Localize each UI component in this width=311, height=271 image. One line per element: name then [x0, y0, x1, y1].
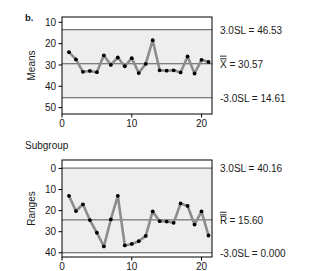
means-data-point	[130, 56, 134, 60]
means-chart: 504030201001020Means3.0SL = 46.53X= 30.5…	[26, 17, 286, 129]
ranges-data-point	[74, 209, 78, 213]
means-ytick-label: 50	[45, 102, 57, 113]
ranges-data-point	[200, 210, 204, 214]
ranges-data-point	[207, 234, 211, 238]
ranges-axis-title: Ranges	[26, 191, 37, 225]
ranges-data-point	[88, 218, 92, 222]
means-xtick-label: 10	[126, 118, 138, 129]
means-ytick-label: 30	[45, 60, 57, 71]
ranges-ytick-label: 30	[45, 226, 57, 237]
ranges-center-value: = 15.60	[230, 215, 264, 226]
ranges-data-point	[102, 245, 106, 249]
ranges-ytick-label: 40	[45, 247, 57, 258]
ranges-ytick-label: 0	[50, 163, 56, 174]
means-data-point	[67, 50, 71, 54]
ranges-xtick-label: 20	[196, 261, 208, 271]
means-below-lcl-band	[62, 98, 212, 114]
ranges-center-annotation: R= 15.60	[220, 212, 264, 226]
ranges-data-point	[109, 218, 113, 222]
ranges-center-symbol: R	[220, 215, 227, 226]
means-lcl-annotation: -3.0SL = 14.61	[220, 93, 286, 104]
means-data-point	[172, 68, 176, 72]
means-ytick-label: 20	[45, 38, 57, 49]
means-xtick-label: 20	[196, 118, 208, 129]
ranges-data-point	[158, 219, 162, 223]
ranges-lcl-annotation: -3.0SL = 0.000	[220, 248, 286, 259]
ranges-ytick-label: 20	[45, 205, 57, 216]
means-data-point	[207, 60, 211, 64]
ranges-data-point	[95, 231, 99, 235]
means-data-point	[88, 69, 92, 73]
ranges-data-point	[193, 223, 197, 227]
figure-canvas: b.504030201001020Means3.0SL = 46.53X= 30…	[0, 0, 311, 271]
control-chart-figure: b.504030201001020Means3.0SL = 46.53X= 30…	[0, 0, 311, 271]
ranges-xtick-label: 0	[59, 261, 65, 271]
means-center-symbol: X	[220, 59, 227, 70]
subgroup-axis-title: Subgroup	[25, 140, 69, 151]
ranges-below-lcl-band	[62, 253, 212, 257]
ranges-above-ucl-band	[62, 160, 212, 168]
means-ytick-label: 40	[45, 81, 57, 92]
means-data-point	[74, 58, 78, 62]
means-data-point	[193, 72, 197, 76]
means-data-point	[179, 71, 183, 75]
means-data-point	[200, 58, 204, 62]
means-data-point	[165, 69, 169, 73]
ranges-data-point	[137, 239, 141, 243]
means-data-point	[102, 53, 106, 57]
means-data-point	[123, 64, 127, 68]
means-above-ucl-band	[62, 17, 212, 30]
means-data-point	[137, 71, 141, 75]
means-data-point	[95, 70, 99, 74]
means-center-value: = 30.57	[230, 59, 264, 70]
means-xtick-label: 0	[59, 118, 65, 129]
ranges-ucl-annotation: 3.0SL = 40.16	[220, 163, 283, 174]
means-data-point	[186, 55, 190, 59]
means-data-point	[144, 62, 148, 66]
ranges-data-point	[144, 234, 148, 238]
ranges-data-point	[165, 220, 169, 224]
means-data-point	[116, 56, 120, 60]
means-data-point	[158, 68, 162, 72]
ranges-chart: 40302010001020Ranges3.0SL = 40.16R= 15.6…	[26, 160, 286, 271]
ranges-data-point	[116, 194, 120, 198]
ranges-xtick-label: 10	[126, 261, 138, 271]
ranges-data-point	[172, 221, 176, 225]
means-axis-title: Means	[26, 50, 37, 80]
means-center-annotation: X= 30.57	[220, 56, 264, 70]
ranges-data-point	[151, 210, 155, 214]
ranges-data-point	[186, 204, 190, 208]
ranges-data-point	[67, 194, 71, 198]
panel-label: b.	[25, 12, 33, 23]
means-data-point	[81, 70, 85, 74]
ranges-data-point	[123, 244, 127, 248]
means-data-point	[109, 63, 113, 67]
ranges-data-point	[179, 202, 183, 206]
ranges-data-point	[130, 242, 134, 246]
ranges-data-point	[81, 202, 85, 206]
means-data-point	[151, 38, 155, 42]
means-ytick-label: 10	[45, 17, 57, 28]
means-ucl-annotation: 3.0SL = 46.53	[220, 25, 283, 36]
ranges-ytick-label: 10	[45, 184, 57, 195]
